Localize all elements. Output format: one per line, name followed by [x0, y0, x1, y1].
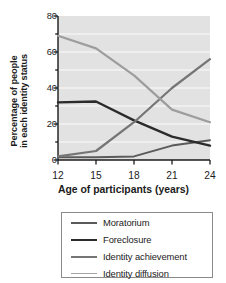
- legend-item-identity-achievement: Identity achievement: [62, 249, 212, 264]
- legend-item-moratorium: Moratorium: [62, 215, 212, 230]
- legend-swatch-identity-achievement: [71, 256, 97, 258]
- legend-label-foreclosure: Foreclosure: [103, 234, 151, 245]
- legend-label-moratorium: Moratorium: [103, 217, 149, 228]
- legend-label-identity-diffusion: Identity diffusion: [103, 268, 169, 279]
- legend-swatch-moratorium: [71, 222, 97, 224]
- chart-legend: Moratorium Foreclosure Identity achievem…: [61, 212, 213, 278]
- legend-swatch-identity-diffusion: [71, 273, 97, 274]
- legend-swatch-foreclosure: [71, 239, 97, 241]
- x-axis-label: Age of participants (years): [26, 184, 221, 195]
- chart-figure: Percentage of people in each identity st…: [0, 0, 226, 283]
- legend-item-foreclosure: Foreclosure: [62, 232, 212, 247]
- legend-item-identity-diffusion: Identity diffusion: [62, 266, 212, 281]
- legend-label-identity-achievement: Identity achievement: [103, 251, 187, 262]
